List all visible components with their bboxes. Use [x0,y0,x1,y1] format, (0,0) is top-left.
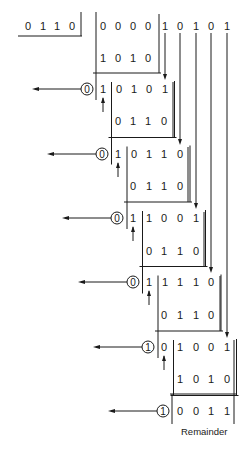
subtrahend-digit: 0 [143,52,153,64]
result-digit: 0 [206,341,216,353]
subtrahend-digit: 0 [206,309,216,321]
divisor-digit: 1 [38,20,48,32]
subtrahend-digit: 1 [159,180,169,192]
result-digit: 1 [160,83,170,95]
result-digit: 0 [206,276,216,288]
dividend-digit: 1 [160,20,170,32]
divisor-digit: 0 [67,20,77,32]
subtrahend-digit: 1 [175,373,185,385]
subtrahend-digit: 0 [128,180,138,192]
subtrahend-digit: 1 [206,373,216,385]
dividend-digit: 0 [206,20,216,32]
result-digit: 1 [128,212,138,224]
result-digit: 0 [159,212,169,224]
subtrahend-digit: 1 [175,245,185,257]
dividend-digit: 0 [113,20,123,32]
remainder-digit: 1 [222,405,232,417]
subtrahend-digit: 0 [159,115,169,127]
subtrahend-digit: 1 [128,52,138,64]
quotient-bit-circle: 0 [96,148,109,161]
result-digit: 0 [191,341,201,353]
result-digit: 0 [144,83,154,95]
result-digit: 1 [175,276,185,288]
remainder-digit: 0 [175,405,185,417]
result-digit: 1 [113,148,123,160]
subtrahend-digit: 0 [222,373,232,385]
divisor-digit: 0 [23,20,33,32]
result-digit: 1 [191,212,201,224]
result-digit: 1 [191,276,201,288]
subtrahend-digit: 1 [175,309,185,321]
subtrahend-digit: 1 [143,115,153,127]
result-digit: 0 [129,148,139,160]
result-digit: 1 [222,341,232,353]
subtrahend-digit: 1 [144,180,154,192]
remainder-digit: 0 [191,405,201,417]
quotient-bit-circle: 1 [142,341,155,354]
subtrahend-digit: 1 [128,115,138,127]
binary-division-diagram: 0 1 1 0 0 0 0 0 1 0 1 0 1 1 0 1 0 0 1 0 … [0,0,251,459]
result-digit: 0 [159,341,169,353]
quotient-bit-circle: 0 [127,276,140,289]
subtrahend-digit: 1 [191,309,201,321]
result-digit: 1 [129,83,139,95]
result-digit: 1 [160,276,170,288]
subtrahend-digit: 0 [159,309,169,321]
divisor-digit: 1 [52,20,62,32]
subtrahend-digit: 0 [191,245,201,257]
subtrahend-digit: 1 [98,52,108,64]
division-lines [0,0,251,459]
quotient-bit-circle: 0 [81,83,94,96]
remainder-label: Remainder [181,426,227,437]
dividend-digit: 0 [128,20,138,32]
dividend-digit: 0 [143,20,153,32]
result-digit: 1 [144,276,154,288]
dividend-digit: 0 [98,20,108,32]
result-digit: 1 [98,83,108,95]
result-digit: 1 [159,148,169,160]
result-digit: 0 [114,83,124,95]
result-digit: 1 [175,341,185,353]
result-digit: 0 [175,212,185,224]
subtrahend-digit: 0 [144,245,154,257]
quotient-bit-circle: 1 [157,405,170,418]
subtrahend-digit: 0 [191,373,201,385]
remainder-digit: 1 [206,405,216,417]
quotient-bit-circle: 0 [111,212,124,225]
result-digit: 1 [144,148,154,160]
result-digit: 1 [144,212,154,224]
dividend-digit: 0 [175,20,185,32]
subtrahend-digit: 0 [175,180,185,192]
subtrahend-digit: 0 [113,115,123,127]
result-digit: 0 [175,148,185,160]
subtrahend-digit: 1 [159,245,169,257]
dividend-digit: 1 [222,20,232,32]
dividend-digit: 1 [191,20,201,32]
subtrahend-digit: 0 [113,52,123,64]
